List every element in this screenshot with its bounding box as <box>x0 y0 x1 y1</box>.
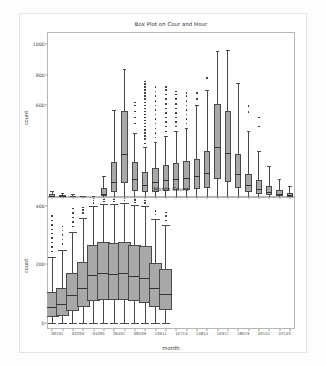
bottom-boxplot-axes: Month Count count 0200400001010220304305… <box>47 197 295 329</box>
cap-lower <box>162 323 170 324</box>
top-boxplot-axes: Box Plot on Cour and Hour count 60080010… <box>47 32 295 197</box>
x-tick-label: 22123 <box>278 331 290 336</box>
cap-upper <box>162 225 170 226</box>
outlier-point <box>165 220 167 222</box>
top-y-axis-label: count <box>23 110 29 125</box>
y-tick-mark <box>45 323 47 324</box>
x-tick-label: 14815 <box>196 331 208 336</box>
bottom-y-axis-label: count <box>23 259 29 274</box>
top-chart-title: Box Plot on Cour and Hour <box>47 21 295 27</box>
x-tick-label: 10611 <box>154 331 166 336</box>
x-tick-label: 06407 <box>113 331 125 336</box>
top-plot-area <box>47 32 295 197</box>
bottom-x-axis-label: month <box>47 345 295 351</box>
whisker-lower <box>165 310 166 323</box>
y-tick-mark <box>45 205 47 206</box>
x-tick-label: 12713 <box>175 331 187 336</box>
y-tick-label: 1000 <box>33 42 45 47</box>
outlier-point <box>165 212 167 214</box>
x-tick-label: 18019 <box>237 331 249 336</box>
x-tick-label: 20121 <box>258 331 270 336</box>
y-tick-label: 800 <box>36 72 45 77</box>
bottom-chart-title: Month Count <box>47 186 295 192</box>
y-tick-label: 400 <box>36 203 45 208</box>
boxplot-box <box>47 197 295 329</box>
y-tick-label: 600 <box>36 103 45 108</box>
outlier-point <box>165 215 167 217</box>
whisker-upper <box>165 225 166 269</box>
y-tick-mark <box>45 105 47 106</box>
y-tick-mark <box>45 44 47 45</box>
x-tick-label: 00101 <box>51 331 63 336</box>
box-iqr <box>159 269 172 310</box>
x-tick-label: 08509 <box>134 331 146 336</box>
median-line <box>159 294 172 295</box>
matplotlib-figure: Box Plot on Cour and Hour count 60080010… <box>0 0 326 366</box>
x-tick-label: 04305 <box>92 331 104 336</box>
y-tick-mark <box>45 74 47 75</box>
bottom-plot-area <box>47 197 295 329</box>
x-tick-label: 16917 <box>216 331 228 336</box>
boxplot-box <box>47 32 295 197</box>
x-tick-label: 02203 <box>72 331 84 336</box>
y-tick-label: 200 <box>36 262 45 267</box>
y-tick-mark <box>45 264 47 265</box>
